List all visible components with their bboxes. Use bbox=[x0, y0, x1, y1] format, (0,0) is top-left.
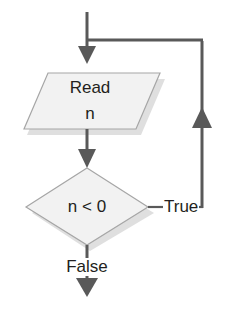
node-decision-negative[interactable]: n < 0 bbox=[26, 168, 154, 251]
edge-decision-true: True bbox=[148, 197, 203, 216]
edge-label-true: True bbox=[164, 197, 198, 216]
decision-label: n < 0 bbox=[68, 197, 106, 216]
input-read-label-line1: Read bbox=[70, 78, 111, 97]
node-input-read[interactable]: Read n bbox=[24, 73, 165, 135]
flowchart-svg: Read n n < 0 True False bbox=[0, 0, 230, 310]
edge-entry bbox=[78, 12, 96, 64]
read-to-decision-arrowhead-icon bbox=[78, 149, 96, 168]
edge-label-false: False bbox=[66, 257, 108, 276]
loopback-arrowhead-icon bbox=[192, 107, 212, 128]
false-arrowhead-icon bbox=[76, 278, 98, 297]
entry-arrowhead-icon bbox=[78, 46, 96, 64]
input-read-label-line2: n bbox=[85, 104, 94, 123]
flowchart-canvas: Read n n < 0 True False bbox=[0, 0, 230, 310]
edge-decision-false: False bbox=[66, 245, 108, 297]
